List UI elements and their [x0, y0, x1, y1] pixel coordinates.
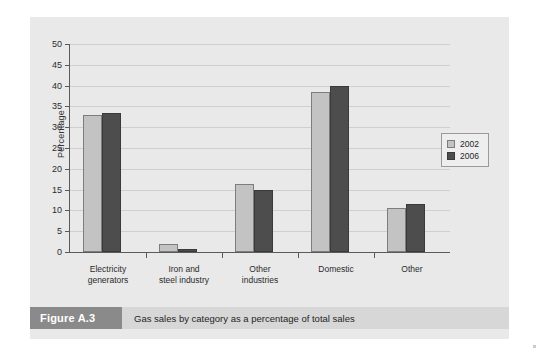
x-axis-category-label: Otherindustries [218, 264, 302, 286]
category-label-line: Electricity [66, 264, 150, 275]
category-label-line: steel industry [142, 275, 226, 286]
legend-label-2002: 2002 [460, 139, 479, 149]
y-axis-tick-label: 50 [52, 39, 62, 49]
chart-panel: Percentage 05101520253035404550 Electric… [30, 17, 509, 339]
bar-2002-electricity-generators [83, 115, 102, 252]
legend-swatch-icon-2002 [447, 140, 455, 148]
y-axis-tick-mark [65, 127, 70, 128]
y-axis-tick-mark [65, 86, 70, 87]
bar-2006-iron-and-steel-industry [178, 249, 197, 252]
bar-group [159, 44, 197, 252]
figure-caption-bar: Figure A.3 Gas sales by category as a pe… [30, 307, 509, 329]
y-axis-tick-mark [65, 44, 70, 45]
gridline [70, 252, 450, 253]
x-axis-category-label: Electricitygenerators [66, 264, 150, 286]
bar-2002-domestic [311, 92, 330, 252]
plot-area: 05101520253035404550 Electricitygenerato… [70, 44, 450, 252]
chart-region: Percentage 05101520253035404550 Electric… [30, 17, 509, 307]
y-axis-tick-label: 45 [52, 60, 62, 70]
legend-swatch-icon-2006 [447, 152, 455, 160]
y-axis-tick-label: 35 [52, 101, 62, 111]
figure-caption-text: Gas sales by category as a percentage of… [122, 307, 509, 329]
bar-group [311, 44, 349, 252]
bar-2006-domestic [330, 86, 349, 252]
y-axis-tick-label: 15 [52, 185, 62, 195]
y-axis-tick-mark [65, 169, 70, 170]
bar-group [235, 44, 273, 252]
y-axis-tick-label: 25 [52, 143, 62, 153]
y-axis-tick-mark [65, 106, 70, 107]
legend-item-2006: 2006 [447, 150, 484, 162]
x-axis-tick-mark [146, 252, 147, 258]
y-axis-tick-mark [65, 148, 70, 149]
y-axis-tick-mark [65, 252, 70, 253]
x-axis-tick-mark [374, 252, 375, 258]
figure-container: Percentage 05101520253035404550 Electric… [0, 0, 542, 352]
bar-2002-other [387, 208, 406, 252]
y-axis-tick-mark [65, 190, 70, 191]
legend-label-2006: 2006 [460, 151, 479, 161]
y-axis-tick-label: 10 [52, 205, 62, 215]
y-axis-tick-label: 5 [57, 226, 62, 236]
y-axis-tick-label: 40 [52, 81, 62, 91]
y-axis-tick-mark [65, 210, 70, 211]
category-label-line: industries [218, 275, 302, 286]
x-axis-category-label: Other [370, 264, 454, 275]
bar-2002-iron-and-steel-industry [159, 244, 178, 252]
x-axis-category-label: Iron andsteel industry [142, 264, 226, 286]
bar-group [387, 44, 425, 252]
legend-item-2002: 2002 [447, 138, 484, 150]
bar-2006-other-industries [254, 190, 273, 252]
category-label-line: Other [218, 264, 302, 275]
x-axis-category-label: Domestic [294, 264, 378, 275]
bar-group [83, 44, 121, 252]
y-axis-tick-label: 20 [52, 164, 62, 174]
y-axis-tick-mark [65, 65, 70, 66]
corner-speck [533, 345, 536, 348]
category-label-line: Iron and [142, 264, 226, 275]
category-label-line: generators [66, 275, 150, 286]
y-axis-tick-label: 30 [52, 122, 62, 132]
y-axis-tick-label: 0 [57, 247, 62, 257]
bar-2002-other-industries [235, 184, 254, 252]
bar-2006-electricity-generators [102, 113, 121, 252]
x-axis-tick-mark [222, 252, 223, 258]
x-axis-tick-mark [298, 252, 299, 258]
y-axis-tick-mark [65, 231, 70, 232]
chart-legend: 2002 2006 [441, 133, 489, 167]
figure-number-label: Figure A.3 [30, 307, 122, 329]
bar-2006-other [406, 204, 425, 252]
category-label-line: Domestic [294, 264, 378, 275]
category-label-line: Other [370, 264, 454, 275]
